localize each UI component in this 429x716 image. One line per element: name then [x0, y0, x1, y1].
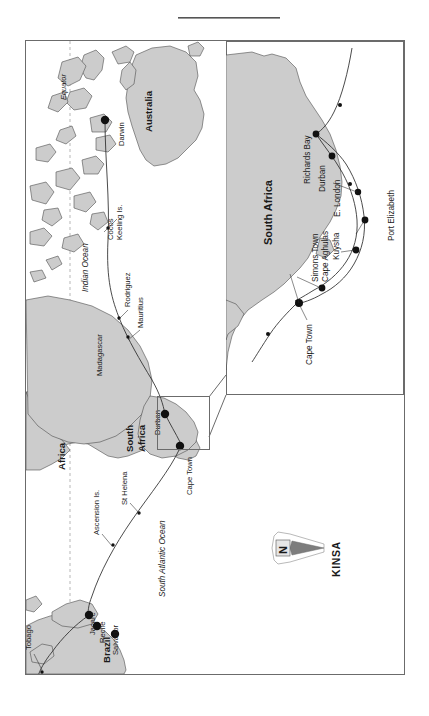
port-marker-durban[interactable] [161, 410, 169, 418]
label-mauritius: Mauritius [136, 297, 145, 328]
label-cocos: Cocos [106, 218, 115, 240]
inset-label-durban: Durban [318, 165, 327, 192]
north-letter: N [277, 546, 289, 554]
inset-label-port-elizabeth: Port Elizabeth [387, 190, 396, 241]
label-south-africa-1: South [124, 425, 135, 452]
label-australia: Australia [143, 90, 154, 132]
inset-label-simons-town: Simons Town [311, 233, 320, 282]
label-salvador: Salvador [111, 625, 120, 655]
label-jacare: Jacare [88, 612, 97, 635]
inset-port-marker-port-elizabeth[interactable] [362, 217, 369, 224]
waypoint-marker-tobago[interactable] [40, 670, 43, 673]
inset-label-cape-town: Cape Town [305, 324, 314, 365]
inset-waypoint-marker[interactable] [266, 332, 270, 336]
inset-label-kuysha: Kuysha [332, 232, 341, 260]
inset-port-marker-e-london[interactable] [355, 189, 361, 195]
map-figure: Equator Australia Darwin Cocos Keeling I… [0, 0, 429, 716]
label-south-atlantic: South Atlantic Ocean [158, 520, 167, 597]
port-marker-darwin[interactable] [101, 116, 109, 124]
label-brazil: Brazil [101, 637, 112, 663]
kinsa-brand-label: KINSA [330, 541, 342, 577]
label-cape-town: Cape Town [185, 457, 194, 495]
top-rule [178, 17, 280, 19]
inset-label-south-africa: South Africa [262, 179, 274, 245]
waypoint-marker-mauritius[interactable] [126, 335, 129, 338]
label-africa: Africa [56, 442, 67, 470]
label-st-helena: St Helena [120, 471, 129, 505]
inset-label-richards-bay: Richards Bay [303, 134, 312, 184]
label-ascension: Ascension Is. [92, 490, 101, 535]
label-darwin: Darwin [117, 122, 126, 146]
label-cocos-keeling: Keeling Is. [115, 205, 124, 240]
inset-waypoint-marker[interactable] [338, 103, 342, 107]
inset-waypoint-marker[interactable] [348, 182, 352, 186]
inset-port-marker-durban[interactable] [329, 153, 336, 160]
inset-port-marker-richards-bay[interactable] [313, 131, 320, 138]
port-marker-cape-town[interactable] [176, 442, 184, 450]
label-indian-ocean: Indian Ocean [81, 243, 90, 292]
label-rodriguez: Rodriguez [123, 272, 132, 307]
label-equator: Equator [59, 74, 68, 100]
waypoint-marker-ascension[interactable] [111, 543, 114, 546]
label-madagascar: Madagascar [95, 334, 104, 376]
inset-label-cape-aghulas: Cape Aghulas [321, 231, 330, 282]
inset-port-marker-cape-aghulas[interactable] [319, 285, 326, 292]
label-south-africa-2: Africa [136, 424, 147, 452]
inset-label-e-london: E. London [333, 179, 342, 217]
